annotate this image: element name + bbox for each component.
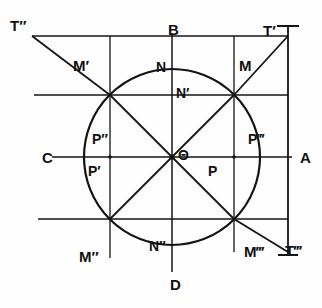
label-tangent-t-double-prime: T″ [10,18,26,33]
label-tangent-t-triple-prime: T‴ [285,243,301,258]
label-proj-p-triple-prime: P‴ [248,132,264,146]
label-axis-right-a: A [300,150,311,165]
tangent-ray-to-Tdoubleprime [32,36,110,95]
trig-circle-figure: T″ T′ T‴ B A C D M M′ M″ M‴ N N′ N″ Θ P … [0,0,322,308]
label-point-m-triple-prime: M‴ [244,244,264,259]
label-tangent-t-prime: T′ [263,23,276,38]
label-proj-p: P [208,164,217,178]
label-axis-top-b: B [168,22,179,37]
label-point-m: M [239,58,252,73]
label-foot-n-double-prime: N″ [149,239,166,253]
label-foot-n: N [156,60,166,74]
label-point-m-prime: M′ [73,58,89,73]
center-point-marker [169,154,174,159]
point-marker-Pprime [108,155,112,159]
label-axis-left-c: C [42,150,53,165]
point-marker-P [232,155,236,159]
label-foot-n-prime: N′ [176,86,189,100]
label-center-theta: Θ [178,148,189,162]
label-proj-p-double-prime: P″ [92,132,108,146]
label-axis-bottom-d: D [170,277,181,292]
label-point-m-double-prime: M″ [79,249,99,264]
label-proj-p-prime: P′ [88,164,101,178]
